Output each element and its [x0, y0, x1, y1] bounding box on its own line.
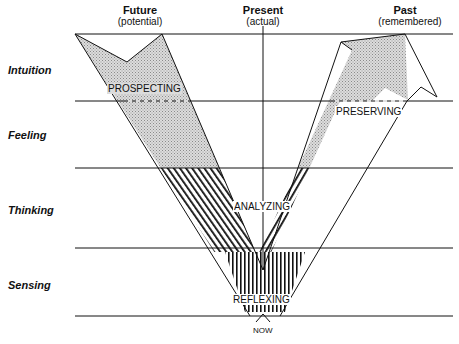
now-marker — [256, 314, 270, 322]
future-subtitle: (potential) — [95, 16, 185, 27]
present-title: Present — [233, 4, 293, 16]
present-subtitle: (actual) — [233, 16, 293, 27]
time-function-diagram — [0, 0, 459, 344]
past-title: Past — [375, 4, 435, 16]
reflexing-label: REFLEXING — [232, 294, 291, 305]
now-label: NOW — [253, 326, 273, 335]
prospecting-label: PROSPECTING — [107, 83, 182, 94]
row-label-thinking: Thinking — [8, 204, 54, 216]
future-title: Future — [100, 4, 180, 16]
preserving-label: PRESERVING — [335, 106, 402, 117]
row-label-sensing: Sensing — [8, 279, 51, 291]
row-label-feeling: Feeling — [8, 129, 47, 141]
row-label-intuition: Intuition — [8, 64, 51, 76]
analyzing-label: ANALYZING — [233, 201, 291, 212]
past-subtitle: (remembered) — [370, 16, 450, 27]
